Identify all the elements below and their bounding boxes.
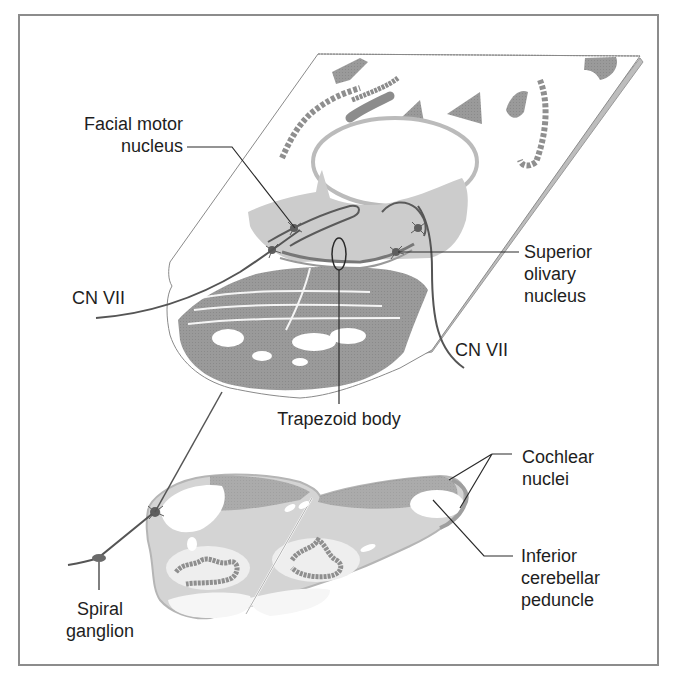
label-line: Superior xyxy=(524,241,592,263)
label-cn-vii-right: CN VII xyxy=(455,339,508,361)
label-line: olivary xyxy=(524,263,592,285)
label-cochlear-nuclei: Cochlear nuclei xyxy=(522,446,594,490)
label-line: Cochlear xyxy=(522,446,594,468)
label-line: CN VII xyxy=(72,287,125,309)
label-line: cerebellar xyxy=(521,567,600,589)
label-line: nuclei xyxy=(522,468,594,490)
label-line: peduncle xyxy=(521,589,600,611)
label-spiral-ganglion: Spiral ganglion xyxy=(58,598,142,642)
label-line: ganglion xyxy=(58,620,142,642)
label-facial-motor-nucleus: Facial motor nucleus xyxy=(70,113,183,157)
label-line: Facial motor xyxy=(70,113,183,135)
spiral-ganglion-cell xyxy=(92,554,106,562)
label-line: Inferior xyxy=(521,545,600,567)
label-line: CN VII xyxy=(455,339,508,361)
label-cn-vii-left: CN VII xyxy=(72,287,125,309)
label-superior-olivary-nucleus: Superior olivary nucleus xyxy=(524,241,592,307)
cochlear-nerve xyxy=(68,514,152,565)
label-line: Spiral xyxy=(58,598,142,620)
pons-section xyxy=(96,54,643,398)
label-trapezoid-body: Trapezoid body xyxy=(264,408,414,430)
label-line: nucleus xyxy=(524,285,592,307)
label-line: Trapezoid body xyxy=(264,408,414,430)
label-inferior-cerebellar-peduncle: Inferior cerebellar peduncle xyxy=(521,545,600,611)
label-line: nucleus xyxy=(70,135,183,157)
